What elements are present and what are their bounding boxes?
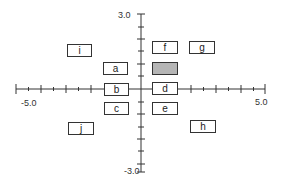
box-e: e [152,102,178,115]
axes-svg [0,0,281,177]
box-j: j [68,122,94,135]
x-max-label: 5.0 [255,97,268,107]
box-f: f [152,41,178,54]
box-i: i [67,44,92,57]
box-g: g [189,41,215,54]
y-max-label: 3.0 [118,10,131,20]
x-min-label: -5.0 [21,98,37,108]
box-c: c [104,102,129,115]
box-a: a [103,62,128,75]
box-d: d [152,82,178,95]
box-b: b [104,83,129,96]
box-h: h [190,120,216,133]
box-shaded [152,62,178,75]
y-min-label: -3.0 [124,166,140,176]
